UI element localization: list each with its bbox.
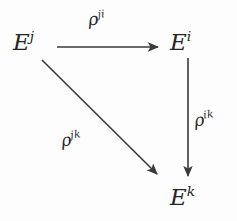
node-ej-superscript: j	[30, 28, 35, 44]
node-label-ej: Ej	[13, 30, 34, 54]
node-ek-base: E	[170, 184, 187, 210]
node-ek-superscript: k	[187, 183, 196, 199]
edge-vertical-superscript: ik	[202, 107, 214, 120]
edge-label-rho-ik: ρik	[193, 108, 216, 129]
node-ei-superscript: i	[187, 28, 192, 44]
edge-top-superscript: ji	[97, 7, 105, 20]
commutative-diagram: Ej Ei Ek ρji ρik ρjk	[0, 0, 237, 221]
node-label-ei: Ei	[170, 30, 192, 54]
node-label-ek: Ek	[170, 185, 195, 209]
node-ei-base: E	[170, 29, 187, 55]
node-ej-base: E	[13, 29, 30, 55]
arrow-ej-to-ek	[42, 60, 157, 174]
edge-label-rho-jk: ρjk	[60, 128, 83, 149]
edge-label-rho-ji: ρji	[87, 8, 106, 28]
edge-diagonal-superscript: jk	[69, 127, 81, 140]
